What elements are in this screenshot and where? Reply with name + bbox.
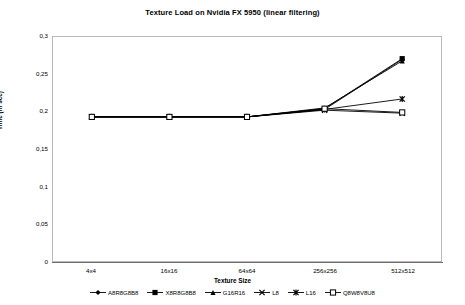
y-axis-title: Time (in sec) — [0, 91, 3, 130]
legend-marker-icon — [254, 289, 270, 296]
legend-item: L16 — [288, 289, 316, 296]
series-lines — [53, 37, 441, 261]
data-point-marker — [89, 114, 94, 119]
data-point-marker — [330, 290, 335, 295]
data-point-marker — [322, 106, 327, 111]
legend-item: L8 — [254, 289, 279, 296]
series-line — [92, 61, 402, 117]
y-tick-label: 0,05 — [18, 221, 48, 227]
x-axis-title: Texture Size — [0, 277, 465, 284]
x-tick-label: 16x16 — [129, 268, 209, 274]
legend-label: L16 — [306, 290, 316, 296]
chart-legend: A8R8G8B8X8R8G8B8G16R16L8L16Q8W8V8U8 — [0, 289, 465, 296]
y-tick-label: 0 — [18, 259, 48, 265]
y-tick-label: 0,15 — [18, 146, 48, 152]
legend-item: Q8W8V8U8 — [325, 289, 375, 296]
x-axis-line — [52, 262, 443, 263]
legend-label: Q8W8V8U8 — [343, 290, 375, 296]
y-tick-label: 0,2 — [18, 108, 48, 114]
legend-item: X8R8G8B8 — [147, 289, 195, 296]
data-point-marker — [95, 290, 100, 295]
legend-label: G16R16 — [223, 290, 245, 296]
data-point-marker — [244, 114, 249, 119]
x-tick-label: 512x512 — [363, 268, 443, 274]
legend-marker-icon — [325, 289, 341, 296]
legend-marker-icon — [205, 289, 221, 296]
x-tick-label: 4x4 — [51, 268, 131, 274]
x-tick-label: 256x256 — [285, 268, 365, 274]
y-tick-label: 0,1 — [18, 184, 48, 190]
chart-title: Texture Load on Nvidia FX 5950 (linear f… — [0, 8, 465, 17]
data-point-marker — [400, 110, 405, 115]
legend-item: A8R8G8B8 — [90, 289, 138, 296]
plot-area — [52, 36, 442, 262]
data-point-marker — [153, 290, 158, 295]
y-tick-label: 0,3 — [18, 33, 48, 39]
chart-container: Texture Load on Nvidia FX 5950 (linear f… — [0, 0, 465, 305]
y-tick-label: 0,25 — [18, 71, 48, 77]
legend-marker-icon — [90, 289, 106, 296]
x-tick-label: 64x64 — [207, 268, 287, 274]
legend-label: A8R8G8B8 — [108, 290, 138, 296]
legend-marker-icon — [147, 289, 163, 296]
legend-label: L8 — [272, 290, 279, 296]
legend-marker-icon — [288, 289, 304, 296]
legend-item: G16R16 — [205, 289, 245, 296]
y-axis-tick-labels: 0,30,250,20,150,10,050 — [14, 0, 48, 305]
series-line — [92, 59, 402, 117]
legend-label: X8R8G8B8 — [165, 290, 195, 296]
data-point-marker — [167, 114, 172, 119]
